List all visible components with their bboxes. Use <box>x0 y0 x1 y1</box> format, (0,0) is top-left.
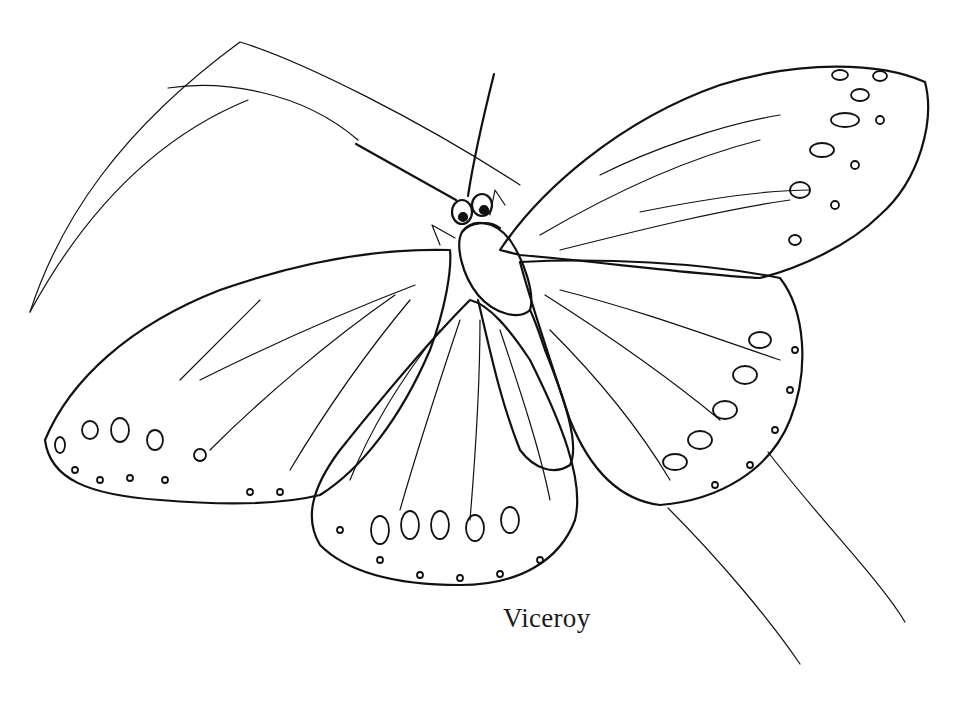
antennae <box>356 74 494 200</box>
left-forewing <box>45 250 450 503</box>
left-hindwing <box>312 300 577 585</box>
species-caption: Viceroy <box>503 603 590 634</box>
butterfly-body <box>432 190 573 470</box>
grass-blade <box>30 42 905 664</box>
right-forewing <box>500 67 928 278</box>
viceroy-butterfly-illustration <box>0 0 961 715</box>
